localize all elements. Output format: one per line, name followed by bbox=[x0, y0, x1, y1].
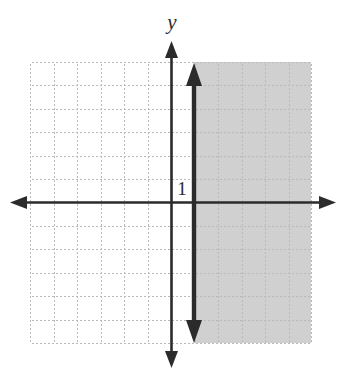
y-axis-top-arrowhead bbox=[165, 41, 178, 58]
graph-figure: y 1 bbox=[0, 0, 344, 390]
x-axis-left-arrowhead bbox=[10, 196, 27, 209]
y-axis-bottom-arrowhead bbox=[165, 351, 178, 368]
y-axis-label: y bbox=[167, 12, 176, 33]
y-axis bbox=[165, 41, 178, 368]
x-axis-right-arrowhead bbox=[319, 196, 336, 209]
tick-label-one: 1 bbox=[177, 179, 187, 198]
coordinate-plane bbox=[0, 0, 344, 390]
